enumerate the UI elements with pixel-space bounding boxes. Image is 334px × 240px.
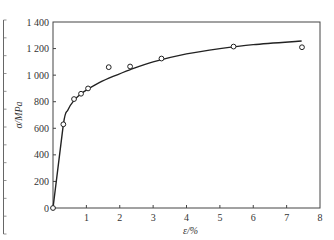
x-tick-label: 1 xyxy=(84,212,89,223)
y-axis-label: σ/MPa xyxy=(13,101,24,128)
y-tick-label: 400 xyxy=(34,149,49,160)
y-axis-ticks: 02004006008001 0001 2001 400 xyxy=(27,17,57,214)
x-axis-label: ε/% xyxy=(183,225,198,236)
x-tick-label: 7 xyxy=(284,212,289,223)
data-point xyxy=(128,64,133,69)
stress-strain-chart: 12345678 02004006008001 0001 2001 400 ε/… xyxy=(0,0,334,240)
y-tick-label: 0 xyxy=(44,203,49,214)
x-tick-label: 4 xyxy=(184,212,189,223)
data-points-group xyxy=(51,44,305,210)
y-tick-label: 1 200 xyxy=(27,43,50,54)
data-point xyxy=(61,122,66,127)
data-point xyxy=(72,97,77,102)
y-tick-label: 600 xyxy=(34,123,49,134)
data-point xyxy=(51,206,56,211)
x-tick-label: 6 xyxy=(251,212,256,223)
data-point xyxy=(86,86,91,91)
data-point xyxy=(106,65,111,70)
plot-frame xyxy=(53,22,320,208)
data-point xyxy=(79,91,84,96)
y-tick-label: 200 xyxy=(34,176,49,187)
fitted-curve-group xyxy=(53,41,302,208)
x-tick-label: 8 xyxy=(318,212,323,223)
x-tick-label: 5 xyxy=(217,212,222,223)
y-tick-label: 800 xyxy=(34,96,49,107)
data-point xyxy=(159,56,164,61)
x-tick-label: 3 xyxy=(151,212,156,223)
data-point xyxy=(300,45,305,50)
data-point xyxy=(231,44,236,49)
y-tick-label: 1 400 xyxy=(27,17,50,28)
x-tick-label: 2 xyxy=(117,212,122,223)
y-tick-label: 1 000 xyxy=(27,70,50,81)
fitted-curve-line xyxy=(53,41,302,208)
neighbor-figure-axis-fragment xyxy=(4,20,7,234)
